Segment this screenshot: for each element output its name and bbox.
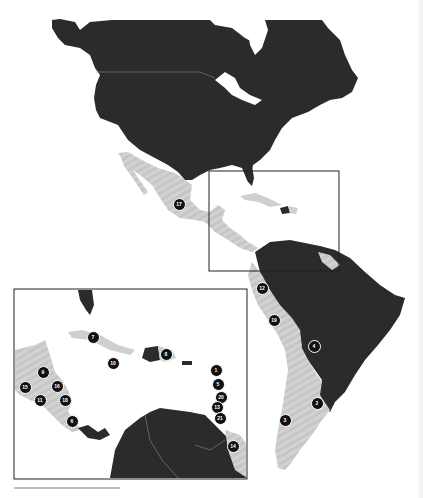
region-marker-4[interactable]: 4 — [308, 340, 321, 353]
inset-marker-1[interactable]: 1 — [210, 364, 223, 377]
inset-marker-16[interactable]: 16 — [51, 380, 64, 393]
cuba — [240, 193, 282, 207]
inset-marker-11[interactable]: 11 — [34, 394, 47, 407]
inset-marker-18[interactable]: 18 — [59, 394, 72, 407]
inset-marker-21[interactable]: 21 — [214, 412, 227, 425]
inset-marker-7[interactable]: 7 — [87, 331, 100, 344]
inset-marker-8[interactable]: 8 — [160, 348, 173, 361]
inset-marker-10[interactable]: 10 — [107, 357, 120, 370]
region-marker-19[interactable]: 19 — [268, 314, 281, 327]
map-canvas — [0, 0, 423, 498]
caption-rule — [14, 487, 120, 489]
inset-marker-14[interactable]: 14 — [227, 440, 240, 453]
florida — [243, 166, 254, 186]
north-america-landmass — [52, 19, 358, 185]
inset-puerto-rico — [182, 361, 192, 365]
inset-marker-6[interactable]: 6 — [66, 415, 79, 428]
inset-marker-9[interactable]: 9 — [37, 366, 50, 379]
region-marker-2[interactable]: 2 — [311, 397, 324, 410]
inset-marker-15[interactable]: 15 — [19, 381, 32, 394]
inset-marker-5[interactable]: 5 — [212, 378, 225, 391]
page-edge — [419, 0, 423, 498]
region-marker-17[interactable]: 17 — [173, 198, 186, 211]
region-marker-3[interactable]: 3 — [279, 414, 292, 427]
region-marker-12[interactable]: 12 — [256, 282, 269, 295]
